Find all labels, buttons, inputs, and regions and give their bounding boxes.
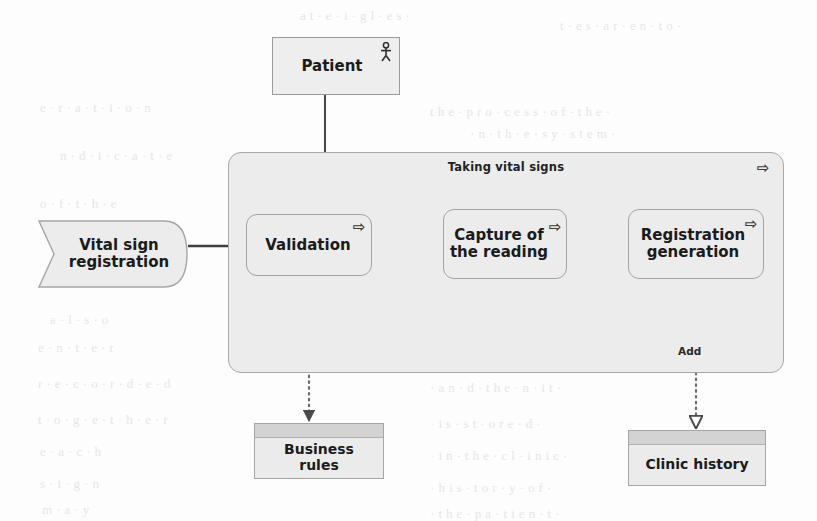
subprocess-arrow-icon: ⇨ — [756, 161, 769, 176]
diagram-canvas: a t · e · i · g l · e s ·t · e s · a r ·… — [0, 0, 817, 521]
data-store-clinic-history[interactable]: Clinic history — [628, 430, 766, 486]
actor-label: Patient — [301, 57, 370, 75]
subprocess-arrow-icon: ⇨ — [548, 220, 561, 235]
input-flag-vital-sign-registration[interactable]: Vital signregistration — [38, 220, 188, 288]
activity-node-capture-of-the-reading[interactable]: Capture ofthe reading ⇨ — [443, 209, 567, 279]
data-store-business-rules[interactable]: Businessrules — [254, 423, 384, 479]
container-title: Taking vital signs — [229, 160, 783, 174]
data-store-label: Businessrules — [284, 441, 354, 473]
activity-label: Registrationgeneration — [641, 227, 752, 261]
actor-node-patient[interactable]: Patient — [272, 37, 400, 95]
subprocess-arrow-icon: ⇨ — [744, 217, 757, 232]
activity-node-validation[interactable]: Validation ⇨ — [246, 214, 372, 276]
activity-node-registration-generation[interactable]: Registrationgeneration ⇨ — [628, 209, 764, 279]
data-store-label: Clinic history — [645, 456, 748, 472]
actor-stick-figure-icon — [379, 42, 393, 62]
edge-label-add: Add — [676, 345, 703, 357]
subprocess-arrow-icon: ⇨ — [352, 220, 365, 235]
input-flag-label: Vital signregistration — [53, 237, 173, 272]
activity-label: Capture ofthe reading — [450, 227, 560, 261]
activity-label: Validation — [265, 237, 352, 254]
